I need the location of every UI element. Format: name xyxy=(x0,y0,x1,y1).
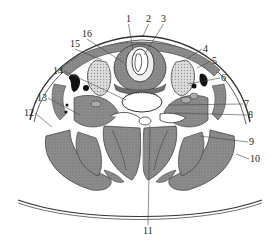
leader-line-12 xyxy=(35,113,52,127)
label-8: 8 xyxy=(248,110,253,120)
label-3: 3 xyxy=(161,14,166,24)
label-13: 13 xyxy=(37,93,47,103)
anatomy-drawing xyxy=(0,0,278,248)
label-15: 15 xyxy=(70,39,80,49)
leader-line-2 xyxy=(143,24,149,36)
label-5: 5 xyxy=(212,56,217,66)
label-2: 2 xyxy=(146,14,151,24)
label-4: 4 xyxy=(203,44,208,54)
label-12: 12 xyxy=(24,108,34,118)
label-1: 1 xyxy=(126,14,131,24)
label-16: 16 xyxy=(82,29,92,39)
label-6: 6 xyxy=(221,73,226,83)
label-10: 10 xyxy=(250,154,260,164)
neck-cross-section-diagram: 12345678910111213141516 xyxy=(0,0,278,248)
leader-line-10 xyxy=(236,154,249,159)
label-14: 14 xyxy=(53,66,63,76)
label-11: 11 xyxy=(143,226,153,236)
label-9: 9 xyxy=(249,137,254,147)
label-7: 7 xyxy=(244,99,249,109)
